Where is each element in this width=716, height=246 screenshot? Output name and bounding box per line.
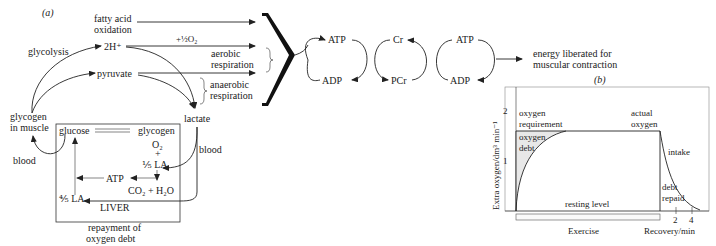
energy-label-2: muscular contraction — [533, 59, 617, 70]
liver-la-four-fifths: ⅘ LA — [59, 193, 85, 204]
exercise-bar — [516, 214, 660, 220]
repayment-label-1: repayment of — [88, 222, 142, 233]
oxidation-label: oxidation — [94, 24, 132, 35]
repayment-label-2: oxygen debt — [86, 233, 135, 244]
cycle-adp-1: ADP — [322, 75, 342, 86]
cycle1-up-arrow — [305, 38, 325, 60]
cycle1-right-arc — [352, 40, 367, 80]
glycolysis-label: glycolysis — [28, 46, 69, 57]
anaerobic-brace — [200, 78, 207, 104]
h-plus-label: 2H⁺ — [104, 41, 122, 52]
liver-atp: ATP — [106, 173, 124, 184]
liver-plus: + — [155, 148, 161, 159]
panel-b-label: (b) — [594, 74, 606, 86]
actual-oxygen-label-1: actual — [631, 108, 653, 118]
cycle-atp-1: ATP — [328, 34, 346, 45]
fatty-acid-label: fatty acid — [94, 13, 131, 24]
x-tick-2: 2 — [673, 215, 678, 225]
respiration-label-1: respiration — [211, 59, 254, 70]
exercise-label: Exercise — [568, 226, 599, 236]
x-axis-label: Recovery/min — [644, 226, 695, 236]
cycle3-left-arc — [436, 40, 452, 80]
liver-glycogen: glycogen — [138, 125, 175, 136]
aerobic-brace — [266, 48, 273, 72]
cycle1-left-arc — [307, 60, 320, 81]
oxygen-debt-label-2: debt — [519, 143, 535, 153]
actual-oxygen-label-2: oxygen — [631, 119, 658, 129]
lactate-label: lactate — [184, 113, 211, 124]
liver-glucose: glucose — [59, 125, 90, 136]
cycle-atp-2: ATP — [456, 34, 474, 45]
glycogen-muscle-label: glycogen — [10, 111, 47, 122]
debt-repaid-label-1: debt — [662, 182, 678, 192]
diagram-canvas: (a) fatty acid oxidation 2H⁺ +½O₂ glycol… — [0, 0, 716, 246]
cycle-adp-2: ADP — [450, 75, 470, 86]
anaerobic-label: anaerobic — [210, 79, 249, 90]
y-axis-label: Extra oxygen/dm³ min⁻¹ — [491, 121, 501, 210]
panel-a-label: (a) — [42, 7, 54, 19]
y-tick-2: 2 — [503, 106, 508, 116]
cycle2-right-arc — [408, 40, 427, 80]
aerobic-label: aerobic — [211, 48, 241, 59]
blood-left-label: blood — [13, 155, 36, 166]
resting-level-label: resting level — [565, 199, 610, 209]
liver-co2-h2o: CO₂ + H₂O — [128, 185, 174, 196]
intake-label: intake — [668, 147, 690, 157]
convergence-chevron — [262, 13, 295, 106]
oxygen-debt-label-1: oxygen — [519, 132, 546, 142]
h-plus-to-lactate — [126, 47, 195, 108]
oxygen-requirement-label-2: requirement — [519, 119, 563, 129]
debt-repaid-label-2: repaid — [662, 193, 685, 203]
respiration-label-2: respiration — [210, 90, 253, 101]
half-o2-label: +½O₂ — [176, 34, 197, 44]
energy-label-1: energy liberated for — [533, 48, 612, 59]
y-tick-1: 1 — [503, 156, 508, 166]
x-tick-4: 4 — [689, 215, 694, 225]
in-muscle-label: in muscle — [10, 122, 49, 133]
cycle3-right-arc — [478, 40, 495, 80]
cycle2-left-arc — [375, 40, 390, 80]
liver-title: LIVER — [100, 202, 130, 213]
cycle-pcr: PCr — [391, 75, 407, 86]
pyruvate-label: pyruvate — [97, 68, 133, 79]
oxygen-requirement-label-1: oxygen — [519, 108, 546, 118]
cycle-cr: Cr — [393, 34, 404, 45]
blood-left-loop — [33, 134, 65, 154]
blood-right-label: blood — [199, 144, 222, 155]
